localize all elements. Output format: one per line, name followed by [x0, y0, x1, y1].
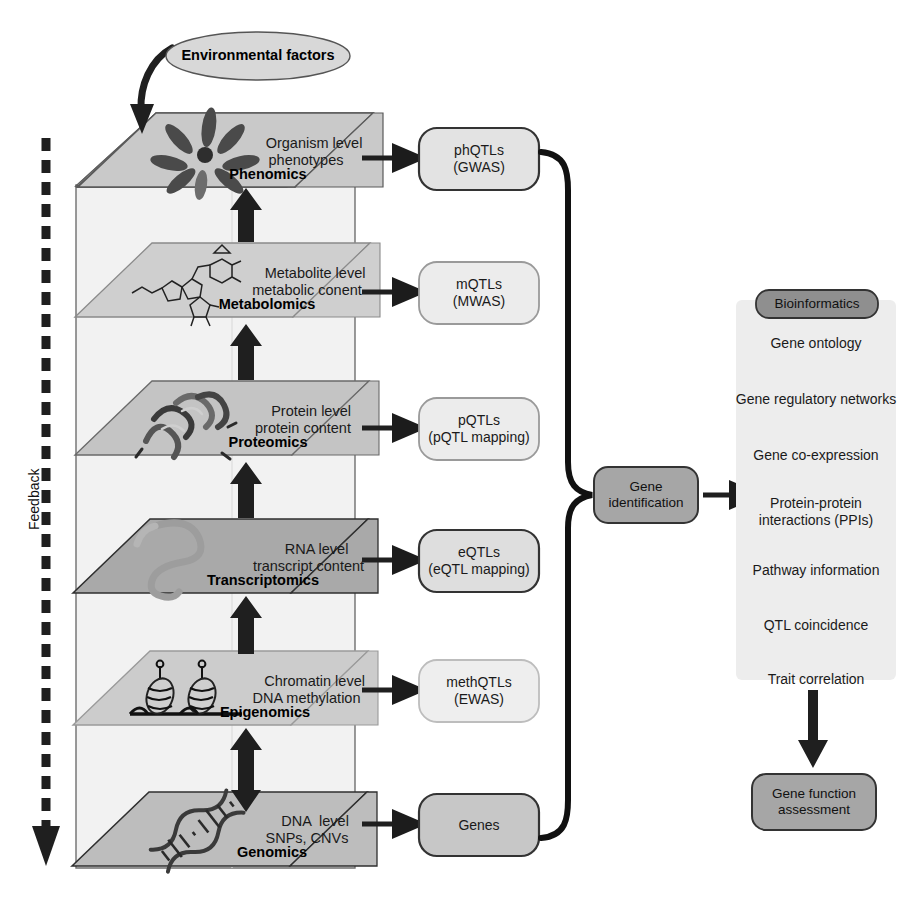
bioinformatics-item-qtl-coincidence: QTL coincidence	[716, 617, 913, 634]
plane-name-phenomics: Phenomics	[198, 166, 338, 183]
bioinformatics-title: Bioinformatics	[737, 296, 897, 312]
environmental-factors-label: Environmental factors	[148, 47, 368, 63]
qtl-label-methqtls: methQTLs(EWAS)	[414, 674, 544, 708]
qtl-label-phqtls: phQTLs(GWAS)	[414, 142, 544, 176]
bioinformatics-item-gene-co-expression: Gene co-expression	[716, 447, 913, 464]
gene-function-label: Gene functionassessment	[752, 786, 876, 818]
qtl-label-mqtls: mQTLs(MWAS)	[414, 276, 544, 310]
qtl-label-eqtls: eQTLs(eQTL mapping)	[414, 544, 544, 578]
omics-diagram: Environmental factors Feedback Organism …	[0, 0, 913, 902]
plane-name-genomics: Genomics	[202, 844, 342, 861]
qtl-label-pqtls: pQTLs(pQTL mapping)	[414, 412, 544, 446]
feedback-label: Feedback	[26, 469, 42, 530]
bioinformatics-item-trait-correlation: Trait correlation	[716, 671, 913, 688]
plane-name-metabolomics: Metabolomics	[192, 296, 342, 313]
qtl-brace	[541, 152, 592, 838]
gene-identification-label: Geneidentification	[594, 479, 698, 511]
panel-to-genefunction-arrow	[798, 690, 828, 768]
bioinformatics-item-protein-protein-interactions: Protein-proteininteractions (PPIs)	[716, 495, 913, 529]
plane-name-epigenomics: Epigenomics	[190, 704, 340, 721]
qtl-label-genes: Genes	[414, 817, 544, 834]
bioinformatics-item-pathway-information: Pathway information	[716, 562, 913, 579]
plane-name-proteomics: Proteomics	[198, 434, 338, 451]
qtl-box-group	[419, 128, 539, 856]
bioinformatics-item-gene-regulatory-networks: Gene regulatory networks	[716, 391, 913, 408]
bioinformatics-item-gene-ontology: Gene ontology	[716, 335, 913, 352]
plane-name-transcriptomics: Transcriptomics	[178, 572, 348, 589]
